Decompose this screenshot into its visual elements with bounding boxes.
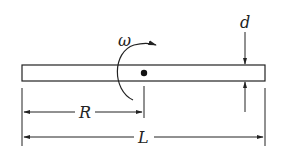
l-label: L [137,128,149,147]
pivot-dot [141,70,147,76]
d-label: d [240,13,250,32]
omega-label: ω [118,31,131,50]
r-label: R [78,103,91,122]
rod-diagram: ω R L d [0,0,282,152]
